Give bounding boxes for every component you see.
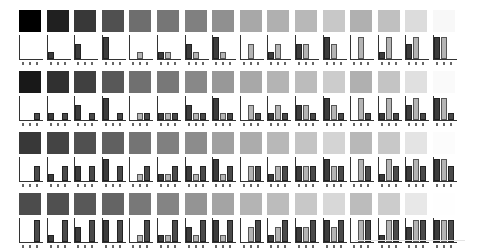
swatch-cell: RGB	[19, 10, 43, 68]
level-bar-chart: RGB	[102, 35, 126, 60]
x-tick-label: R	[132, 245, 134, 248]
x-tick-label: R	[408, 123, 410, 126]
x-tick-label: B	[257, 184, 259, 187]
level-bar-chart: RGB	[267, 218, 291, 243]
level-bar-chart: RGB	[240, 218, 264, 243]
x-axis	[405, 242, 429, 243]
level-bar-chart: RGB	[433, 157, 457, 182]
x-tick-label: G	[250, 123, 252, 126]
x-tick-label: R	[381, 62, 383, 65]
color-swatch	[129, 10, 151, 32]
x-axis	[212, 120, 236, 121]
x-tick-label: B	[202, 123, 204, 126]
color-swatch	[74, 71, 96, 93]
x-axis	[47, 181, 71, 182]
x-tick-labels: RGB	[212, 62, 236, 66]
bar-b	[137, 113, 143, 120]
swatch-cell: RGB	[212, 193, 236, 251]
x-axis	[240, 120, 264, 121]
bar-b	[413, 98, 419, 120]
bar-b	[165, 235, 171, 242]
x-axis	[433, 242, 457, 243]
x-axis	[350, 120, 374, 121]
color-swatch	[185, 132, 207, 154]
swatch-cell: RGB	[19, 193, 43, 251]
swatch-cell: RGB	[323, 193, 347, 251]
x-tick-label: R	[270, 62, 272, 65]
color-swatch	[405, 193, 427, 215]
bottom-divider	[355, 240, 465, 241]
bar-b	[413, 37, 419, 59]
x-tick-label: B	[422, 245, 424, 248]
x-tick-labels: RGB	[157, 184, 181, 188]
color-swatch	[323, 71, 345, 93]
x-tick-label: G	[360, 245, 362, 248]
color-swatch	[240, 10, 262, 32]
x-tick-label: G	[167, 62, 169, 65]
swatch-cell: RGB	[74, 10, 98, 68]
level-bar-chart: RGB	[295, 96, 319, 121]
bar-c	[89, 166, 95, 181]
color-swatch	[129, 132, 151, 154]
bar-a	[158, 52, 164, 59]
bar-a	[103, 98, 109, 120]
x-axis	[47, 242, 71, 243]
x-axis	[157, 242, 181, 243]
bar-a	[434, 220, 440, 242]
x-tick-label: B	[395, 123, 397, 126]
bar-b	[303, 227, 309, 242]
x-tick-labels: RGB	[405, 123, 429, 127]
color-swatch	[129, 71, 151, 93]
x-tick-label: G	[57, 62, 59, 65]
x-axis	[74, 59, 98, 60]
x-tick-label: G	[84, 62, 86, 65]
x-tick-label: G	[222, 62, 224, 65]
color-swatch	[212, 132, 234, 154]
x-axis	[378, 59, 402, 60]
swatch-cell: RGB	[267, 10, 291, 68]
x-tick-label: R	[243, 184, 245, 187]
x-tick-label: G	[112, 62, 114, 65]
bar-b	[193, 174, 199, 181]
x-tick-label: G	[84, 245, 86, 248]
bar-c	[365, 220, 371, 242]
x-tick-labels: RGB	[405, 245, 429, 249]
bar-c	[420, 166, 426, 181]
x-tick-label: G	[415, 123, 417, 126]
x-tick-label: G	[388, 245, 390, 248]
x-tick-label: R	[353, 245, 355, 248]
swatch-cell: RGB	[185, 10, 209, 68]
x-tick-label: G	[333, 62, 335, 65]
x-axis	[323, 120, 347, 121]
x-tick-labels: RGB	[19, 62, 43, 66]
swatch-cell: RGB	[240, 132, 264, 190]
level-bar-chart: RGB	[47, 218, 71, 243]
bar-c	[282, 220, 288, 242]
bar-c	[365, 113, 371, 120]
level-bar-chart: RGB	[157, 96, 181, 121]
swatch-cell: RGB	[267, 71, 291, 129]
level-bar-chart: RGB	[157, 35, 181, 60]
bar-a	[158, 113, 164, 120]
bar-c	[34, 113, 40, 120]
bar-c	[282, 113, 288, 120]
x-tick-label: B	[36, 245, 38, 248]
x-tick-labels: RGB	[267, 245, 291, 249]
x-axis	[350, 59, 374, 60]
bar-b	[220, 235, 226, 242]
swatch-cell: RGB	[267, 132, 291, 190]
bar-a	[406, 105, 412, 120]
swatch-cell: RGB	[185, 193, 209, 251]
bar-b	[220, 52, 226, 59]
color-swatch	[350, 132, 372, 154]
x-axis	[129, 181, 153, 182]
bar-b	[441, 159, 447, 181]
x-tick-label: R	[188, 245, 190, 248]
bar-c	[172, 166, 178, 181]
x-tick-labels: RGB	[102, 123, 126, 127]
level-bar-chart: RGB	[378, 35, 402, 60]
swatch-cell: RGB	[350, 132, 374, 190]
x-tick-labels: RGB	[240, 123, 264, 127]
x-tick-label: R	[436, 184, 438, 187]
x-tick-label: R	[160, 62, 162, 65]
